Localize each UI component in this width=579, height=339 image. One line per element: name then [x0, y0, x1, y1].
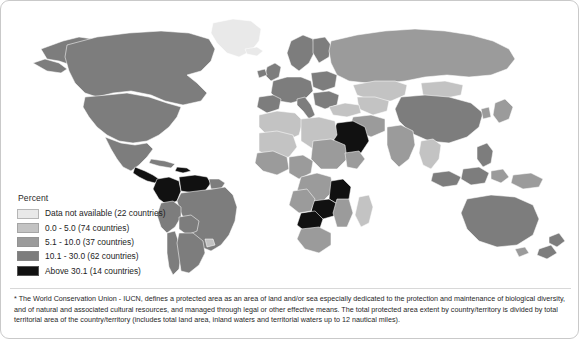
legend-title: Percent — [18, 193, 166, 203]
country-hispaniola — [175, 167, 191, 173]
country-india — [387, 125, 415, 167]
country-new-zealand-south — [537, 245, 557, 259]
country-canada — [65, 31, 215, 105]
legend-item-10-30: 10.1 - 30.0 (62 countries) — [17, 250, 166, 263]
country-myanmar-thailand — [419, 139, 441, 169]
region-asia — [329, 29, 543, 189]
map-canvas: Percent Data not available (22 countries… — [1, 1, 579, 287]
country-somalia — [345, 151, 365, 169]
region-north-america — [33, 19, 263, 183]
country-sudan-ethiopia — [311, 139, 347, 169]
swatch-0-5 — [17, 223, 39, 233]
legend-item-no-data: Data not available (22 countries) — [17, 207, 166, 220]
swatch-no-data — [17, 209, 39, 219]
footnote-block: * The World Conservation Union - IUCN, d… — [14, 294, 568, 326]
legend-label-above-30: Above 30.1 (14 countries) — [45, 267, 141, 275]
country-iberia — [257, 95, 281, 113]
swatch-10-30 — [17, 251, 39, 261]
country-papua-new-guinea — [511, 173, 543, 189]
country-argentina — [177, 233, 205, 273]
footnote-divider — [10, 288, 571, 289]
country-russia — [329, 29, 515, 83]
country-scandinavia — [287, 35, 315, 71]
country-indonesia-borneo — [461, 167, 489, 185]
swatch-5-10 — [17, 237, 39, 247]
country-new-zealand-north — [549, 233, 565, 247]
legend-label-5-10: 5.1 - 10.0 (37 countries) — [45, 238, 134, 246]
region-europe — [257, 35, 339, 119]
country-central-asia — [357, 97, 389, 115]
country-south-africa — [297, 227, 331, 253]
map-legend: Percent Data not available (22 countries… — [17, 193, 166, 278]
country-philippines — [477, 143, 493, 167]
country-tasmania — [515, 247, 529, 257]
country-japan — [493, 99, 513, 123]
country-cuba — [149, 159, 175, 168]
country-poland-baltics — [311, 71, 337, 91]
country-australia — [461, 195, 539, 247]
region-south-america — [153, 175, 237, 275]
footnote-line-3: territorial area of the country/territor… — [14, 315, 568, 326]
legend-item-0-5: 0.0 - 5.0 (74 countries) — [17, 221, 166, 234]
swatch-above-30 — [17, 266, 39, 276]
country-indonesia-sumatra — [431, 171, 461, 187]
legend-item-above-30: Above 30.1 (14 countries) — [17, 264, 166, 277]
country-indonesia-sulawesi — [491, 169, 509, 183]
world-map-figure: Percent Data not available (22 countries… — [0, 0, 579, 339]
country-italy — [297, 97, 315, 119]
country-united-kingdom — [265, 63, 281, 81]
country-mozambique — [333, 199, 353, 227]
country-korea — [481, 107, 491, 119]
legend-item-5-10: 5.1 - 10.0 (37 countries) — [17, 236, 166, 249]
legend-label-no-data: Data not available (22 countries) — [45, 209, 166, 217]
footnote-line-2: and of natural and associated cultural r… — [14, 305, 568, 316]
region-oceania — [461, 195, 565, 259]
country-finland — [313, 37, 331, 63]
country-iceland — [245, 47, 263, 56]
country-ireland — [257, 69, 267, 78]
country-central-america — [133, 167, 159, 183]
legend-label-0-5: 0.0 - 5.0 (74 countries) — [45, 224, 129, 232]
country-madagascar — [355, 195, 373, 227]
legend-label-10-30: 10.1 - 30.0 (62 countries) — [45, 252, 139, 260]
footnote-line-1: * The World Conservation Union - IUCN, d… — [14, 294, 568, 305]
